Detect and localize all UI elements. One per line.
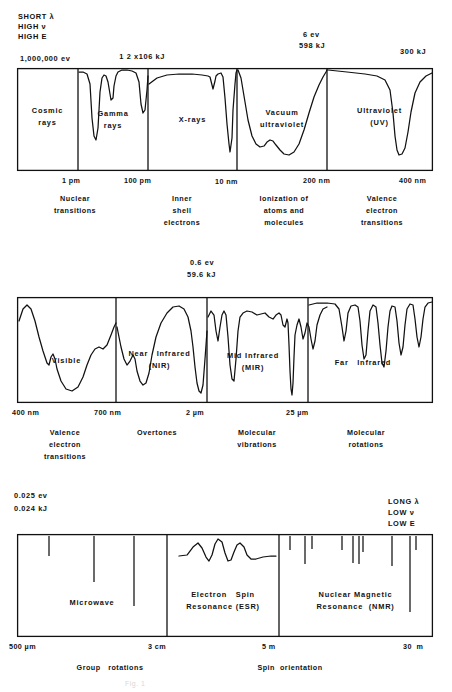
long-lambda-note: LONG λ [388,497,419,508]
band-1-process-ionization: Ionization ofatoms andmolecules [232,193,336,230]
band-3-process-spin-orientation: Spin orientation [220,662,360,674]
band-1-label-cosmic-rays: Cosmicrays [17,105,78,129]
energy-0p025ev: 0.025 ev [14,491,48,502]
band-3-tick-500um: 500 µm [9,642,36,651]
band-2-label-mid-infrared: Mid Infrared(MIR) [204,350,302,374]
band-3-tick-5m: 5 m [262,642,276,651]
band-1-tick-400nm: 400 nm [399,176,426,185]
energy-0p024kj: 0.024 kJ [14,504,48,515]
band-2-process-molecular-rotations: Molecularrotations [316,427,416,451]
band-2-label-visible: Visible [17,355,116,367]
high-e-note: HIGH E [18,32,47,43]
band-2-process-molecular-vibrations: Molecularvibrations [208,427,306,451]
band-1-label-gamma-rays: Gammarays [78,108,148,132]
energy-6ev: 6 ev [303,30,320,41]
band-2-tick-400nm: 400 nm [12,408,39,417]
band-1-label-x-rays: X-rays [148,114,237,126]
low-e-note: LOW E [388,519,415,530]
band-3-label-microwave: Microwave [17,597,167,609]
energy-0p6ev: 0.6 ev [190,258,214,269]
energy-300kj: 300 kJ [400,47,426,58]
band-2-label-far-infrared: Far Infrared [308,357,418,369]
band-3-plot [17,534,433,637]
band-2-process-valence-electron-transitions: Valenceelectrontransitions [15,427,115,464]
band-3-microwave-lines [49,536,134,606]
band-1-label-vacuum-uv: Vacuumultraviolet [237,107,327,131]
band-2-label-near-infrared: Near Infrared(NIR) [112,348,207,372]
band-1-tick-100pm: 100 pm [124,176,151,185]
band-2-trace-visible [19,305,116,391]
band-3-tick-30m: 30 m [403,642,423,651]
band-3-frame [18,535,433,637]
band-2-process-overtones: Overtones [110,427,204,439]
band-1-process-nuclear-transitions: Nucleartransitions [20,193,130,217]
band-1-tick-200nm: 200 nm [303,176,330,185]
band-3-trace-esr [179,539,276,561]
band-3-label-esr: Electron SpinResonance (ESR) [167,589,279,613]
band-1-trace-xray [149,70,237,152]
energy-59p6kj: 59.6 kJ [187,270,216,281]
band-1-process-inner-shell-electrons: Innershellelectrons [132,193,232,230]
figure-caption: Fig. 1 [125,680,146,687]
band-1-tick-10nm: 10 nm [215,177,238,186]
band-1-process-valence-electron-transitions: Valenceelectrontransitions [332,193,432,230]
band-3-label-nmr: Nuclear MagneticResonance (NMR) [279,589,432,613]
band-2-tick-700nm: 700 nm [94,408,121,417]
band-3-process-group-rotations: Group rotations [40,662,180,674]
band-1-tick-1pm: 1 pm [62,176,80,185]
energy-1000000ev: 1,000,000 ev [20,54,70,65]
energy-598kj: 598 kJ [299,41,325,52]
band-2-tick-2um: 2 µm [186,408,204,417]
energy-12e6kj: 1 2 x106 kJ [114,41,165,62]
band-2-tick-25um: 25 µm [286,408,309,417]
band-1-label-ultraviolet: Ultraviolet(UV) [327,105,432,129]
low-nu-note: LOW ν [388,508,414,519]
band-3-tick-3cm: 3 cm [148,642,166,651]
